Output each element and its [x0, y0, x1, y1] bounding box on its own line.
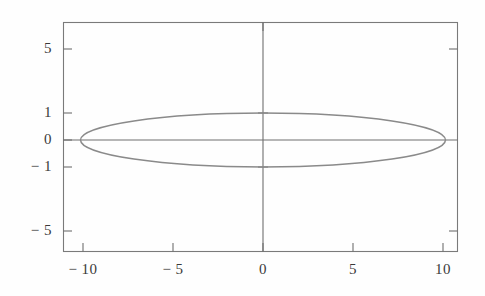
y-tick-label-5: 5 [26, 41, 52, 56]
frame-rectangle [64, 23, 458, 252]
plot-frame [64, 23, 458, 252]
x-tick-label-10: 10 [420, 262, 466, 277]
y-tick-label-minus-5: − 5 [14, 223, 52, 238]
x-tick-label-minus-10: − 10 [53, 262, 113, 277]
y-tick-label-1: 1 [26, 105, 52, 120]
x-tick-label-0: 0 [243, 262, 283, 277]
x-tick-label-5: 5 [333, 262, 373, 277]
x-tick-label-minus-5: − 5 [146, 262, 200, 277]
y-tick-label-0: 0 [26, 132, 52, 147]
origin-axes [64, 23, 458, 252]
plot-canvas [0, 0, 485, 296]
figure-container: 5 1 0 − 1 − 5 − 10 − 5 0 5 10 [0, 0, 485, 296]
y-tick-label-minus-1: − 1 [14, 159, 52, 174]
frame-ticks [64, 23, 458, 252]
